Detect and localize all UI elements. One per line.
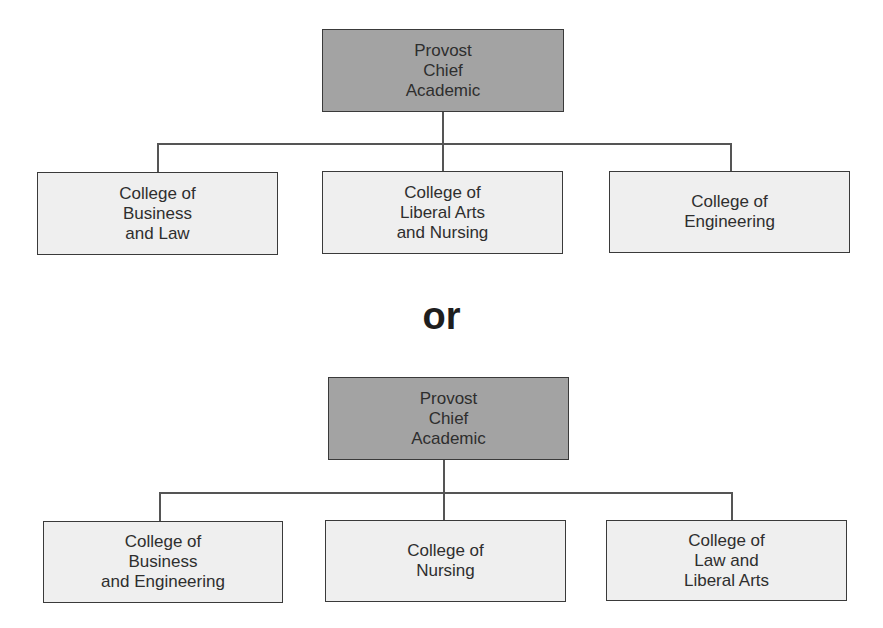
college-box: College of Business and Engineering [43,521,283,603]
provost-label: Provost Chief Academic [406,41,481,101]
college-label: College of Engineering [684,192,775,232]
connector-line [157,143,159,172]
connector-line [442,143,444,171]
connector-line [731,492,733,520]
provost-label: Provost Chief Academic [411,389,486,449]
college-box: College of Nursing [325,520,566,602]
college-label: College of Liberal Arts and Nursing [397,183,489,243]
college-box: College of Business and Law [37,172,278,255]
college-label: College of Law and Liberal Arts [684,531,769,591]
college-label: College of Business and Engineering [101,532,225,592]
college-label: College of Nursing [407,541,484,581]
connector-line [157,143,731,145]
connector-line [443,460,445,493]
provost-box: Provost Chief Academic [328,377,569,460]
connector-line [159,492,161,521]
connector-line [730,143,732,171]
college-box: College of Law and Liberal Arts [606,520,847,601]
college-label: College of Business and Law [119,184,196,244]
connector-line [442,111,444,144]
college-box: College of Liberal Arts and Nursing [322,171,563,254]
college-box: College of Engineering [609,171,850,253]
connector-line [443,492,445,520]
connector-line [159,492,732,494]
provost-box: Provost Chief Academic [322,29,564,112]
separator-or: or [0,295,883,338]
